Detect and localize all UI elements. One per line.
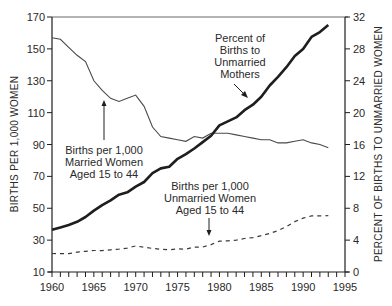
x-tick-label: 1990 [291,281,315,293]
y-tick-label: 150 [27,43,45,55]
chart: 1030507090110130150170 048121620242832 1… [0,0,392,306]
annotation-percent-unmarried: Percent of Births to Unmarried Mothers [214,32,266,98]
annotation-line: Mothers [220,68,260,80]
annotation-line: Unmarried [214,56,265,68]
y-right-tick-label: 28 [353,43,365,55]
annotation-line: Births per 1,000 [171,180,249,192]
y-right-tick-label: 8 [353,202,359,214]
y-right-tick-label: 32 [353,11,365,23]
x-tick-label: 1975 [165,281,189,293]
y-tick-label: 30 [33,234,45,246]
annotation-line: Percent of [215,32,266,44]
y-right-tick-label: 16 [353,139,365,151]
y-tick-label: 130 [27,75,45,87]
x-tick-label: 1980 [207,281,231,293]
annotation-line: Unmarried Women [164,192,256,204]
y-right-tick-label: 4 [353,234,359,246]
annotation-line: Married Women [65,156,143,168]
y-tick-label: 50 [33,202,45,214]
annotation-married: Births per 1,000 Married Women Aged 15 t… [65,100,143,180]
arrowhead-icon [207,230,212,236]
right-axis-title: PERCENT OF BIRTHS TO UNMARRIED WOMEN [373,26,384,262]
series-layer [52,25,328,254]
annotation-line: Aged 15 to 44 [70,168,139,180]
y-right-tick-label: 20 [353,107,365,119]
y-tick-label: 110 [27,107,45,119]
left-axis-title: BIRTHS PER 1,000 WOMEN [9,76,20,212]
x-tick-label: 1965 [82,281,106,293]
x-tick-label: 1995 [333,281,357,293]
y-right-tick-label: 0 [353,266,359,278]
arrowhead-icon [102,100,107,106]
series-line [52,216,328,254]
left-y-axis: 1030507090110130150170 [27,11,52,278]
annotation-unmarried: Births per 1,000 Unmarried Women Aged 15… [164,180,256,236]
x-tick-label: 1970 [123,281,147,293]
y-right-tick-label: 24 [353,75,365,87]
annotation-line: Births to [220,44,260,56]
right-y-axis: 048121620242832 [345,11,365,278]
y-tick-label: 170 [27,11,45,23]
y-right-tick-label: 12 [353,170,365,182]
x-tick-label: 1960 [40,281,64,293]
y-tick-label: 10 [33,266,45,278]
y-tick-label: 70 [33,170,45,182]
annotation-line: Aged 15 to 44 [176,204,245,216]
series-line [52,38,328,148]
annotation-line: Births per 1,000 [65,144,143,156]
y-tick-label: 90 [33,139,45,151]
x-tick-label: 1985 [249,281,273,293]
x-axis: 19601965197019751980198519901995 [40,272,357,293]
